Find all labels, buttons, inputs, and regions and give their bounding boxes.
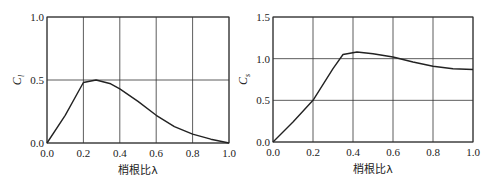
- y-tick-label: 0.0: [256, 136, 270, 148]
- chart-cs-vs-taper-ratio: 0.00.20.40.60.81.00.00.51.01.5梢根比λCs: [236, 11, 480, 176]
- x-tick-label: 1.0: [222, 147, 236, 159]
- x-tick-label: 0.8: [426, 146, 440, 158]
- x-tick-label: 0.6: [149, 147, 163, 159]
- chart-figure: 0.00.20.40.60.81.00.00.51.0梢根比λCl 0.00.2…: [0, 0, 492, 180]
- x-tick-label: 0.8: [186, 147, 200, 159]
- y-axis-label: Cs: [236, 74, 252, 85]
- y-tick-label: 1.0: [256, 53, 270, 65]
- plot-frame: [273, 17, 473, 142]
- x-tick-label: 0.2: [77, 147, 91, 159]
- x-tick-label: 0.2: [306, 146, 320, 158]
- y-tick-label: 0.5: [30, 74, 44, 86]
- y-tick-label: 1.0: [30, 11, 44, 23]
- x-tick-label: 1.0: [466, 146, 480, 158]
- y-tick-label: 0.0: [30, 137, 44, 149]
- x-tick-label: 0.4: [113, 147, 127, 159]
- x-axis-label: 梢根比λ: [353, 162, 393, 176]
- x-tick-label: 0.4: [346, 146, 360, 158]
- data-series-line: [47, 80, 229, 143]
- x-axis-label: 梢根比λ: [118, 163, 158, 177]
- data-series-line: [273, 52, 473, 142]
- y-tick-label: 0.5: [256, 94, 270, 106]
- y-axis-label: Cl: [10, 74, 26, 85]
- y-tick-label: 1.5: [256, 11, 270, 23]
- chart-cl-vs-taper-ratio: 0.00.20.40.60.81.00.00.51.0梢根比λCl: [10, 11, 236, 177]
- x-tick-label: 0.6: [386, 146, 400, 158]
